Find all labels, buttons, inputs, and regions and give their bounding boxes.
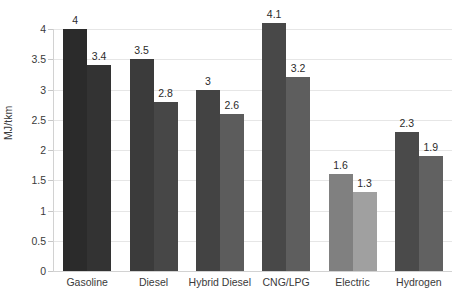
- bar-value-label: 4: [55, 15, 95, 26]
- y-axis-title: MJ/tkm: [2, 70, 14, 140]
- x-category-label: Gasoline: [54, 277, 120, 288]
- y-tick-label: 3: [4, 85, 46, 96]
- y-tick-mark: [48, 120, 53, 121]
- gridline: [54, 29, 452, 30]
- x-category-label: CNG/LPG: [253, 277, 319, 288]
- bar: [419, 156, 443, 271]
- bar-value-label: 1.9: [411, 142, 451, 153]
- y-tick-mark: [48, 211, 53, 212]
- gridline: [54, 271, 452, 272]
- gridline: [54, 241, 452, 242]
- bar-value-label: 2.6: [212, 100, 252, 111]
- y-tick-mark: [48, 90, 53, 91]
- y-tick-mark: [48, 59, 53, 60]
- y-tick-label: 2.5: [4, 115, 46, 126]
- bar: [63, 29, 87, 271]
- y-tick-mark: [48, 150, 53, 151]
- y-tick-label: 4: [4, 24, 46, 35]
- y-tick-label: 3.5: [4, 54, 46, 65]
- y-tick-mark: [48, 271, 53, 272]
- y-tick-label: 0.5: [4, 236, 46, 247]
- x-category-label: Electric: [319, 277, 385, 288]
- bar: [87, 65, 111, 271]
- plot-area: 43.43.52.832.64.13.21.61.32.31.9: [54, 29, 452, 271]
- y-tick-label: 2: [4, 145, 46, 156]
- bar-value-label: 3.2: [278, 63, 318, 74]
- bar-value-label: 1.6: [321, 160, 361, 171]
- gridline: [54, 180, 452, 181]
- gridline: [54, 90, 452, 91]
- x-category-label: Diesel: [120, 277, 186, 288]
- y-tick-label: 0: [4, 266, 46, 277]
- bar-value-label: 3.4: [79, 51, 119, 62]
- x-category-label: Hybrid Diesel: [187, 277, 253, 288]
- bar: [220, 114, 244, 271]
- bar-chart: MJ/tkm 00.511.522.533.54 43.43.52.832.64…: [0, 0, 466, 304]
- y-tick-label: 1.5: [4, 175, 46, 186]
- y-tick-mark: [48, 180, 53, 181]
- bar: [262, 23, 286, 271]
- y-tick-label: 1: [4, 206, 46, 217]
- y-tick-mark: [48, 29, 53, 30]
- bar-value-label: 2.8: [146, 88, 186, 99]
- bar-value-label: 3.5: [122, 45, 162, 56]
- bar: [154, 102, 178, 271]
- x-category-label: Hydrogen: [386, 277, 452, 288]
- gridline: [54, 211, 452, 212]
- bar-value-label: 2.3: [387, 118, 427, 129]
- bar-value-label: 3: [188, 76, 228, 87]
- gridline: [54, 150, 452, 151]
- bar: [286, 77, 310, 271]
- bar-value-label: 1.3: [345, 178, 385, 189]
- bar: [395, 132, 419, 271]
- bar: [196, 90, 220, 272]
- bar-value-label: 4.1: [254, 9, 294, 20]
- y-tick-mark: [48, 241, 53, 242]
- bar: [353, 192, 377, 271]
